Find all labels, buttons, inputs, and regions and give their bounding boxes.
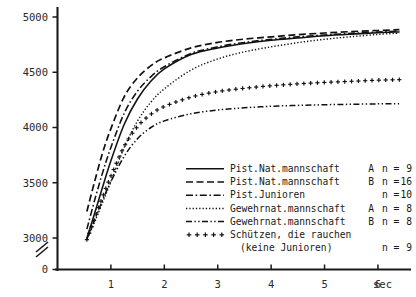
x-tick-label-5: 5 <box>321 278 327 290</box>
legend-n-prefix-2: n = <box>382 176 400 187</box>
legend-n-value-5: 8 <box>406 216 412 227</box>
legend-label-1: Pist.Nat.mannschaft <box>230 163 340 174</box>
legend-n-value-6: 9 <box>406 242 412 253</box>
curve-6-marker <box>390 78 394 82</box>
legend-label-6: Schützen, die rauchen <box>230 229 351 240</box>
curve-6-marker <box>384 78 388 82</box>
x-tick-label-3: 3 <box>215 278 221 290</box>
curve-6-marker <box>193 94 197 98</box>
curve-6-marker <box>397 78 401 82</box>
legend-n-value-4: 8 <box>406 203 412 214</box>
y-tick-label-4500: 4500 <box>23 66 48 78</box>
curve-6-marker <box>254 85 258 89</box>
legend-label-5: Gewehrnat.mannschaft <box>230 216 346 227</box>
curve-6-marker <box>139 121 143 125</box>
x-axis-ticks: 123456 <box>108 265 381 291</box>
curve-6-marker <box>302 81 306 85</box>
curve-6-marker <box>343 79 347 83</box>
curve-6-marker <box>149 112 153 116</box>
curve-6-marker <box>213 90 217 94</box>
curve-6-marker <box>144 116 148 120</box>
curve-6-marker <box>377 78 381 82</box>
curve-6-marker <box>322 80 326 84</box>
curve-6-marker <box>261 84 265 88</box>
chart-svg: 030003500400045005000 123456 sec Pist.Na… <box>0 0 416 297</box>
legend-variant-2: B <box>368 176 374 187</box>
curve-6-marker <box>336 80 340 84</box>
curve-6-marker <box>227 88 231 92</box>
curve-6-marker <box>180 98 184 102</box>
curve-6-marker <box>247 86 251 90</box>
legend-n-prefix-3: n = <box>382 189 400 200</box>
x-tick-label-4: 4 <box>268 278 274 290</box>
legend-n-prefix-1: n = <box>382 163 400 174</box>
legend-label-4: Gewehrnat.mannschaft <box>230 203 346 214</box>
curve-6-marker <box>268 84 272 88</box>
chart-legend: Pist.Nat.mannschaftAn =9Pist.Nat.mannsch… <box>186 163 412 253</box>
curve-6-marker <box>207 91 211 95</box>
y-axis-ticks: 030003500400045005000 <box>23 11 58 276</box>
legend-n-prefix-5: n = <box>382 216 400 227</box>
curve-6-marker <box>309 81 313 85</box>
legend-n-value-1: 9 <box>406 163 412 174</box>
legend-n-prefix-4: n = <box>382 203 400 214</box>
curve-6-marker <box>200 92 204 96</box>
legend-label-3: Pist.Junioren <box>230 189 305 200</box>
legend-n-prefix-6: n = <box>382 242 400 253</box>
x-tick-label-2: 2 <box>161 278 167 290</box>
y-tick-label-4000: 4000 <box>23 121 48 133</box>
legend-label-6-line2: (keine Junioren) <box>240 242 332 253</box>
y-tick-label-0: 0 <box>42 263 48 275</box>
curve-6-marker <box>274 83 278 87</box>
legend-variant-1: A <box>368 163 374 174</box>
curve-6-marker <box>288 82 292 86</box>
legend-variant-5: B <box>368 216 374 227</box>
curve-6-marker <box>187 96 191 100</box>
curve-6-marker <box>349 79 353 83</box>
legend-n-value-2: 16 <box>400 176 412 187</box>
legend-n-value-3: 10 <box>400 189 412 200</box>
curve-6-marker <box>174 100 178 104</box>
x-axis-unit-label: sec <box>373 278 392 290</box>
curve-6-marker <box>295 82 299 86</box>
legend-label-2: Pist.Nat.mannschaft <box>230 176 340 187</box>
curve-6-marker <box>329 80 333 84</box>
curve-6-marker <box>241 86 245 90</box>
curve-6-marker <box>155 108 159 112</box>
chart-container: 030003500400045005000 123456 sec Pist.Na… <box>0 0 416 297</box>
curve-6-marker <box>363 79 367 83</box>
y-axis-break-icon <box>36 242 48 257</box>
curve-6-marker <box>356 79 360 83</box>
curve-6-marker <box>370 78 374 82</box>
curve-6-marker <box>315 81 319 85</box>
curve-6-marker <box>220 89 224 93</box>
y-tick-label-3500: 3500 <box>23 177 48 189</box>
legend-sample-6 <box>187 233 224 238</box>
curve-6-marker <box>281 83 285 87</box>
curve-6-marker <box>167 102 171 106</box>
curve-6-marker <box>85 238 89 242</box>
curve-6-marker <box>161 105 165 109</box>
x-tick-label-1: 1 <box>108 278 114 290</box>
curve-6-marker <box>234 87 238 91</box>
y-tick-label-3000: 3000 <box>23 232 48 244</box>
y-tick-label-5000: 5000 <box>23 11 48 23</box>
legend-variant-4: A <box>368 203 374 214</box>
